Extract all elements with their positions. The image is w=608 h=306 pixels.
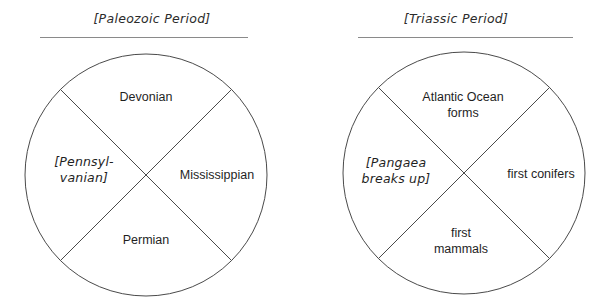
worksheet-canvas: [Paleozoic Period] Devonian Mississippia… [0,0,608,306]
triassic-title-underline [358,37,573,38]
paleozoic-sector-left-line2: vanian] [30,170,138,186]
triassic-sector-bottom-line1: first [400,225,522,241]
triassic-sector-left-label: [Pangaea breaks up] [338,155,454,187]
paleozoic-sector-right-label: Mississippian [163,167,271,183]
triassic-sector-top-line2: forms [402,105,524,121]
paleozoic-sector-top-label: Devonian [86,89,206,105]
paleozoic-sector-left-line1: [Pennsyl- [30,154,138,170]
triassic-sector-left-line2: breaks up] [338,171,454,187]
triassic-sector-left-line1: [Pangaea [338,155,454,171]
paleozoic-panel-title: [Paleozoic Period] [0,11,304,26]
triassic-panel: [Triassic Period] Atlantic Ocean forms f… [304,0,608,306]
triassic-sector-bottom-line2: mammals [400,241,522,257]
triassic-sector-top-line1: Atlantic Ocean [402,89,524,105]
paleozoic-panel: [Paleozoic Period] Devonian Mississippia… [0,0,304,306]
paleozoic-title-underline [40,37,248,38]
triassic-sector-bottom-label: first mammals [400,225,522,257]
triassic-sector-top-label: Atlantic Ocean forms [402,89,524,121]
paleozoic-sector-bottom-label: Permian [86,232,206,248]
triassic-panel-title: [Triassic Period] [304,11,608,26]
triassic-sector-right-label: first conifers [486,166,596,182]
paleozoic-sector-left-label: [Pennsyl- vanian] [30,154,138,186]
